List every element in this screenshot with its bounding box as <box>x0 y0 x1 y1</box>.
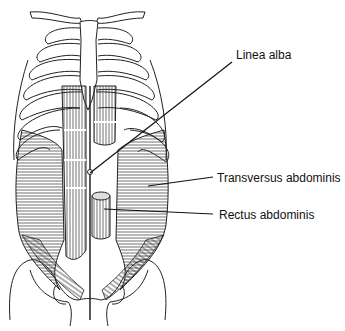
abdominal-muscles-illustration <box>0 0 345 331</box>
anatomy-figure: Linea alba Transversus abdominis Rectus … <box>0 0 345 331</box>
label-transversus-abdominis: Transversus abdominis <box>217 171 341 185</box>
rectus-abdominis-left <box>62 86 86 259</box>
label-rectus-abdominis: Rectus abdominis <box>219 208 314 222</box>
pelvis <box>10 260 166 326</box>
label-linea-alba: Linea alba <box>236 48 291 62</box>
